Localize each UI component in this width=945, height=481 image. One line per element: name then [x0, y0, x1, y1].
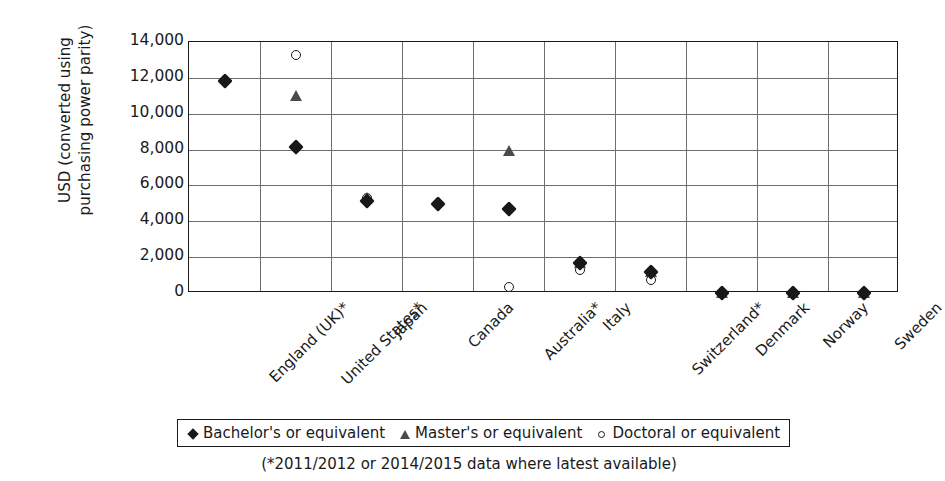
y-axis-tick-label: 8,000: [96, 141, 184, 157]
x-axis-tick-labels: England (UK)*United States*JapanCanadaAu…: [188, 292, 898, 412]
data-point-diamond: [501, 201, 517, 217]
horizontal-gridline: [189, 78, 897, 79]
x-axis-tick-label: Australia*: [541, 300, 604, 363]
legend-item[interactable]: Master's or equivalent: [399, 424, 582, 442]
vertical-gridline: [757, 42, 758, 291]
vertical-gridline: [402, 42, 403, 291]
x-axis-tick-label: Canada: [465, 300, 516, 351]
x-axis-tick-label: Japan: [390, 300, 430, 340]
y-axis-tick-label: 6,000: [96, 176, 184, 192]
vertical-gridline: [615, 42, 616, 291]
y-axis-tick-label: 2,000: [96, 248, 184, 264]
y-axis-tick-label: 4,000: [96, 212, 184, 228]
y-axis-tick-label: 0: [96, 284, 184, 300]
legend-item-label: Doctoral or equivalent: [612, 424, 780, 442]
horizontal-gridline: [189, 257, 897, 258]
circle-marker-icon: [596, 427, 609, 440]
y-axis-tick-label: 14,000: [96, 33, 184, 49]
plot-area: [188, 41, 898, 292]
horizontal-gridline: [189, 221, 897, 222]
legend-item[interactable]: Bachelor's or equivalent: [187, 424, 385, 442]
data-point-triangle: [503, 145, 515, 156]
vertical-gridline: [260, 42, 261, 291]
legend-item[interactable]: Doctoral or equivalent: [596, 424, 780, 442]
diamond-marker-icon: [187, 427, 200, 440]
y-axis-tick-label: 12,000: [96, 69, 184, 85]
vertical-gridline: [828, 42, 829, 291]
x-axis-tick-label: Norway: [820, 300, 871, 351]
horizontal-gridline: [189, 185, 897, 186]
y-axis-tick-label: 10,000: [96, 105, 184, 121]
y-axis-title: USD (converted using purchasing power pa…: [55, 0, 95, 270]
triangle-marker-icon: [399, 427, 412, 440]
chart-footnote: (*2011/2012 or 2014/2015 data where late…: [0, 455, 938, 473]
horizontal-gridline: [189, 114, 897, 115]
legend-item-label: Master's or equivalent: [415, 424, 582, 442]
data-point-circle: [504, 282, 514, 292]
data-point-triangle: [290, 90, 302, 101]
data-point-diamond: [430, 196, 446, 212]
data-point-diamond: [288, 139, 304, 155]
x-axis-tick-label: Italy: [600, 300, 634, 334]
legend-item-label: Bachelor's or equivalent: [203, 424, 385, 442]
vertical-gridline: [473, 42, 474, 291]
data-point-circle: [291, 50, 301, 60]
x-axis-tick-label: Sweden: [892, 300, 945, 353]
y-axis-tick-labels: 14,00012,00010,0008,0006,0004,0002,0000: [96, 41, 184, 292]
vertical-gridline: [686, 42, 687, 291]
chart-legend: Bachelor's or equivalentMaster's or equi…: [177, 419, 790, 447]
x-axis-tick-label: Switzerland*: [689, 300, 767, 378]
vertical-gridline: [544, 42, 545, 291]
data-point-diamond: [217, 74, 233, 90]
vertical-gridline: [331, 42, 332, 291]
